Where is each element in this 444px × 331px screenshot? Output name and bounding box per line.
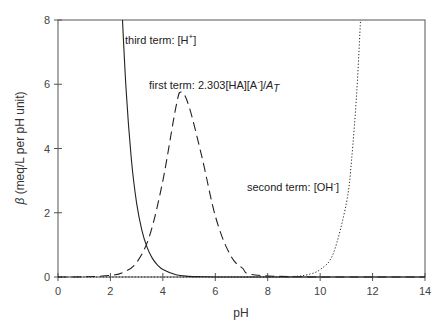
x-tick-label: 0 bbox=[55, 285, 61, 297]
x-tick-label: 6 bbox=[212, 285, 218, 297]
x-tick-label: 12 bbox=[366, 285, 378, 297]
y-axis-title: β (meq/L per pH unit) bbox=[13, 91, 27, 205]
y-tick-label: 4 bbox=[44, 143, 50, 155]
y-tick-label: 2 bbox=[44, 207, 50, 219]
x-tick-label: 4 bbox=[160, 285, 166, 297]
x-tick-label: 10 bbox=[314, 285, 326, 297]
y-tick-label: 6 bbox=[44, 78, 50, 90]
x-tick-label: 2 bbox=[107, 285, 113, 297]
annotation-third-term: third term: [H+] bbox=[125, 32, 196, 46]
y-axis-ticks: 02468 bbox=[44, 14, 62, 283]
curve-second-term-oh bbox=[58, 20, 361, 277]
y-axis-title-rest: (meq/L per pH unit) bbox=[13, 91, 27, 197]
x-tick-label: 14 bbox=[419, 285, 431, 297]
x-axis-title: pH bbox=[233, 306, 248, 320]
curve-first-term-buffer bbox=[58, 92, 425, 277]
buffer-capacity-chart: 02468101214 02468 pH β (meq/L per pH uni… bbox=[0, 0, 444, 331]
annotation-second-term: second term: [OH-] bbox=[247, 179, 339, 193]
plot-area-frame bbox=[58, 20, 425, 277]
y-tick-label: 8 bbox=[44, 14, 50, 26]
beta-symbol: β bbox=[13, 198, 27, 206]
curves bbox=[58, 20, 425, 277]
x-tick-label: 8 bbox=[265, 285, 271, 297]
annotation-first-term: first term: 2.303[HA][A-]/AT bbox=[149, 77, 280, 94]
curve-third-term-h bbox=[123, 20, 426, 277]
y-tick-label: 0 bbox=[44, 271, 50, 283]
